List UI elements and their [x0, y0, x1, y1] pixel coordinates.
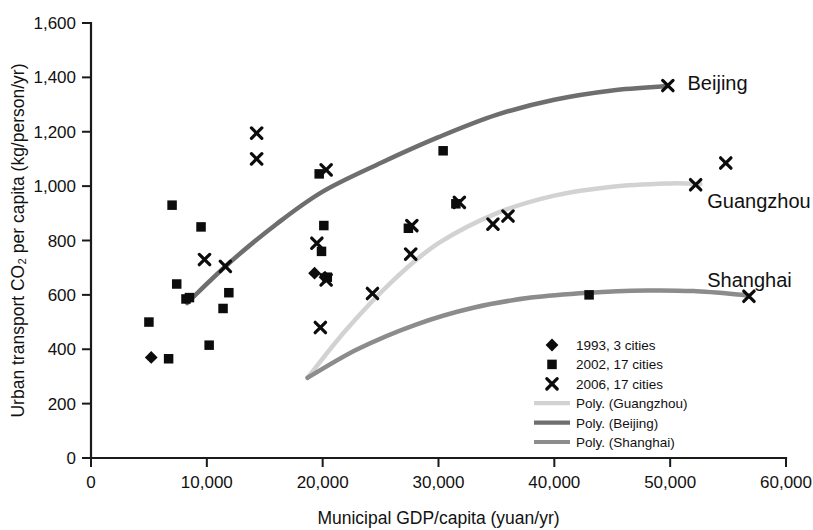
legend-item-5: Poly. (Shanghai) [534, 435, 675, 450]
marker-x [488, 219, 498, 229]
y-tick-label: 1,000 [33, 177, 76, 196]
legend-item-label: Poly. (Guangzhou) [576, 396, 688, 411]
marker-square [584, 290, 594, 300]
marker-square [438, 146, 448, 156]
axis-lines [91, 23, 786, 458]
legend-item-label: 2006, 17 cities [576, 377, 663, 392]
marker-square [319, 221, 329, 231]
legend-item-label: 2002, 17 cities [576, 357, 663, 372]
city-label-beijing: Beijing [688, 72, 748, 94]
x-tick-label: 20,000 [297, 473, 349, 492]
trendlines [187, 86, 749, 378]
marker-x [406, 249, 416, 259]
y-tick-label: 400 [48, 340, 76, 359]
y-axis-title: Urban transport CO₂ per capita (kg/perso… [8, 63, 28, 417]
y-tick-label: 200 [48, 395, 76, 414]
legend: 1993, 3 cities2002, 17 cities2006, 17 ci… [534, 338, 688, 450]
marker-x [367, 288, 377, 298]
city-label-shanghai: Shanghai [707, 269, 792, 291]
series-200617cities [199, 80, 754, 332]
x-tick-label: 60,000 [760, 473, 812, 492]
marker-square [196, 222, 206, 232]
marker-square [167, 200, 177, 210]
marker-diamond [546, 339, 559, 352]
marker-square [172, 279, 182, 289]
marker-x [547, 379, 557, 389]
legend-item-0: 1993, 3 cities [546, 338, 656, 353]
y-tick-label: 0 [67, 449, 76, 468]
marker-square [204, 340, 214, 350]
legend-item-label: Poly. (Beijing) [576, 416, 658, 431]
legend-item-1: 2002, 17 cities [547, 357, 663, 372]
x-tick-label: 0 [86, 473, 95, 492]
scatter-plot: 02004006008001,0001,2001,4001,600010,000… [0, 0, 813, 530]
x-tick-label: 30,000 [413, 473, 465, 492]
x-tick-label: 10,000 [181, 473, 233, 492]
legend-item-3: Poly. (Guangzhou) [534, 396, 688, 411]
marker-square [547, 360, 557, 370]
marker-square [218, 304, 228, 314]
marker-x [251, 154, 261, 164]
x-tick-label: 40,000 [528, 473, 580, 492]
marker-square [144, 317, 154, 327]
data-points [144, 80, 754, 363]
y-tick-label: 1,200 [33, 123, 76, 142]
series-200217cities [144, 146, 594, 363]
marker-x [199, 254, 209, 264]
legend-item-2: 2006, 17 cities [547, 377, 664, 392]
marker-x [721, 158, 731, 168]
y-tick-label: 600 [48, 286, 76, 305]
city-label-guangzhou: Guangzhou [707, 190, 810, 212]
marker-square [224, 288, 234, 298]
city-annotations: BeijingGuangzhouShanghai [688, 72, 811, 291]
trendline-polyshanghai [308, 290, 749, 377]
legend-item-4: Poly. (Beijing) [534, 416, 658, 431]
x-tick-label: 50,000 [644, 473, 696, 492]
marker-square [185, 293, 195, 303]
marker-square [164, 354, 174, 364]
marker-x [251, 128, 261, 138]
marker-x [503, 211, 513, 221]
chart-container: 02004006008001,0001,2001,4001,600010,000… [0, 0, 813, 530]
y-tick-label: 1,600 [33, 14, 76, 33]
trendline-polybeijing [187, 86, 668, 303]
marker-diamond [145, 351, 158, 364]
marker-x [220, 261, 230, 271]
legend-item-label: 1993, 3 cities [576, 338, 656, 353]
y-tick-label: 800 [48, 232, 76, 251]
marker-x [315, 322, 325, 332]
y-tick-label: 1,400 [33, 68, 76, 87]
legend-item-label: Poly. (Shanghai) [576, 435, 675, 450]
x-axis-title: Municipal GDP/capita (yuan/yr) [317, 508, 559, 528]
